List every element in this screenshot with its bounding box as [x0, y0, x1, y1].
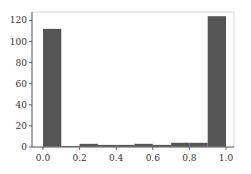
y-tick-label: 120	[10, 15, 27, 25]
histogram-chart: 0.00.20.40.60.81.0 020406080100120	[0, 0, 251, 174]
y-tick-label: 60	[16, 79, 28, 89]
x-tick-label: 0.8	[182, 153, 197, 163]
x-tick-label: 1.0	[219, 153, 234, 163]
y-tick-label: 20	[16, 121, 28, 131]
y-tick-label: 80	[16, 58, 28, 68]
histogram-bar	[171, 143, 189, 147]
histogram-bar	[189, 143, 207, 147]
axes-frame	[32, 12, 234, 147]
x-tick-label: 0.6	[146, 153, 161, 163]
y-tick-label: 100	[10, 37, 27, 47]
histogram-bar	[80, 144, 98, 147]
y-tick-label: 0	[21, 142, 27, 152]
histogram-bar	[135, 144, 153, 147]
x-tick-label: 0.4	[109, 153, 124, 163]
histogram-bar	[208, 16, 226, 147]
y-axis-ticks: 020406080100120	[10, 15, 32, 152]
histogram-bars	[43, 16, 226, 147]
x-axis-ticks: 0.00.20.40.60.81.0	[36, 147, 234, 163]
x-tick-label: 0.2	[72, 153, 86, 163]
y-tick-label: 40	[16, 100, 28, 110]
histogram-bar	[43, 29, 61, 147]
x-tick-label: 0.0	[36, 153, 51, 163]
